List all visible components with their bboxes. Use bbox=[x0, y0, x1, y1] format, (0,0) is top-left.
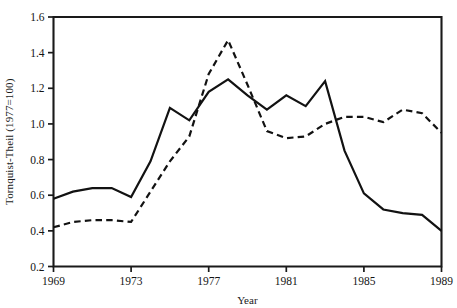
x-tick-label: 1989 bbox=[430, 275, 453, 287]
x-axis-ticks: 196919731977198119851989 bbox=[42, 267, 453, 287]
y-tick-label: 0.8 bbox=[30, 154, 45, 166]
y-axis-title: Tornquist-Theil (1977=100) bbox=[3, 78, 16, 205]
series-line-dashed-series bbox=[54, 40, 442, 227]
data-series-group bbox=[54, 40, 442, 231]
plot-border bbox=[54, 17, 442, 267]
x-axis-title: Year bbox=[237, 294, 258, 306]
y-tick-label: 0.6 bbox=[30, 189, 45, 201]
x-tick-label: 1985 bbox=[352, 275, 375, 287]
x-tick-label: 1981 bbox=[275, 275, 298, 287]
y-tick-label: 1.6 bbox=[30, 11, 45, 23]
y-axis-ticks: 0.20.40.60.81.01.21.41.6 bbox=[30, 11, 53, 273]
y-tick-label: 1.0 bbox=[30, 118, 45, 130]
x-tick-label: 1969 bbox=[42, 275, 65, 287]
x-tick-label: 1977 bbox=[197, 275, 220, 287]
chart-figure: 0.20.40.60.81.01.21.41.6 196919731977198… bbox=[0, 0, 457, 308]
line-chart-plot: 0.20.40.60.81.01.21.41.6 196919731977198… bbox=[0, 0, 457, 308]
y-tick-label: 0.4 bbox=[30, 225, 45, 237]
y-tick-label: 0.2 bbox=[30, 261, 45, 273]
y-tick-label: 1.2 bbox=[30, 82, 45, 94]
plot-frame bbox=[54, 17, 442, 267]
y-tick-label: 1.4 bbox=[30, 47, 45, 59]
series-line-solid-series bbox=[54, 79, 442, 230]
x-tick-label: 1973 bbox=[120, 275, 143, 287]
